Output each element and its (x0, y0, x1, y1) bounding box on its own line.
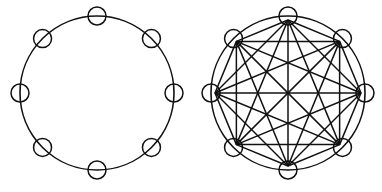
ring-graph (11, 7, 183, 179)
ring-circle (20, 16, 174, 170)
diagram-canvas (0, 0, 382, 192)
graph-diagram (0, 0, 382, 192)
complete-graph (202, 7, 374, 179)
